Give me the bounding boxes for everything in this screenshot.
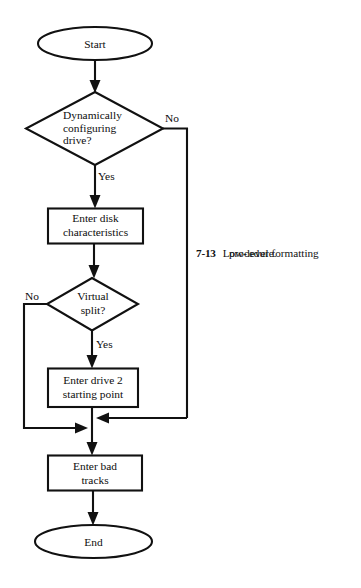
arrowhead-badtracks-to-end bbox=[88, 512, 99, 526]
node-enter-drive2-line1: Enter drive 2 bbox=[63, 374, 123, 386]
flowchart-diagram: Start Dynamically configuring drive? No … bbox=[0, 0, 361, 588]
arrowhead-virtual-no-merge bbox=[75, 423, 88, 434]
node-enter-disk-line2: characteristics bbox=[63, 226, 129, 238]
node-end-label: End bbox=[84, 536, 103, 548]
arrowhead-dynamic-no-merge bbox=[96, 413, 109, 424]
node-virtual-decision-line2: split? bbox=[81, 304, 106, 316]
arrowhead-virtual-yes-to-drive2 bbox=[87, 355, 98, 369]
edge-dynamic-no-path bbox=[163, 129, 187, 419]
node-enter-drive2-line2: starting point bbox=[63, 388, 124, 400]
figure-caption-number: 7-13 bbox=[196, 247, 216, 259]
node-dynamic-decision-line2: configuring bbox=[63, 122, 116, 134]
node-enter-badtracks-line2: tracks bbox=[81, 474, 109, 486]
figure-caption: 7-13Low-level formatting procedure. bbox=[196, 247, 348, 260]
arrowhead-disk-to-virtual bbox=[89, 265, 100, 279]
node-enter-disk-line1: Enter disk bbox=[72, 212, 119, 224]
node-enter-badtracks-line1: Enter bad bbox=[73, 460, 117, 472]
branch-label-dynamic-no: No bbox=[165, 112, 179, 124]
branch-label-virtual-yes: Yes bbox=[96, 338, 113, 350]
arrowhead-dynamic-yes-to-disk bbox=[90, 195, 101, 209]
arrowhead-merge-to-badtracks bbox=[87, 442, 98, 456]
edge-virtual-no-path bbox=[24, 304, 78, 428]
node-dynamic-decision-line3: drive? bbox=[63, 134, 91, 146]
node-virtual-decision-line1: Virtual bbox=[77, 290, 109, 302]
node-start-label: Start bbox=[84, 38, 106, 50]
figure-container: Start Dynamically configuring drive? No … bbox=[0, 0, 361, 588]
node-dynamic-decision-line1: Dynamically bbox=[63, 109, 122, 121]
branch-label-dynamic-yes: Yes bbox=[98, 170, 115, 182]
branch-label-virtual-no: No bbox=[25, 290, 39, 302]
